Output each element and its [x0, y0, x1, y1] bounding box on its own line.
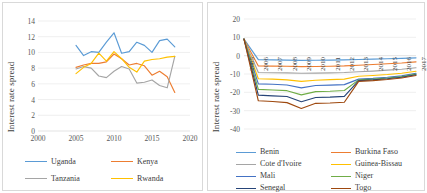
legend-label: Rwanda	[137, 175, 163, 183]
x-tick-label: 2000	[31, 134, 46, 143]
x-tick-label: 2020	[183, 134, 198, 143]
legend-label: Senegal	[260, 184, 285, 192]
chart-frame-right: Interest rate spread 20100-10-20-30-40 2…	[207, 2, 425, 191]
legend-label: Kenya	[137, 158, 158, 166]
series-line-kenya	[76, 54, 175, 93]
x-tick-label: 2015	[391, 57, 399, 71]
x-tick-label: 2008	[291, 57, 299, 71]
y-tick-label: 14	[28, 17, 36, 26]
legend-swatch-icon	[331, 152, 351, 153]
y-tick-label: -40	[230, 125, 240, 134]
legend-item-niger[interactable]: Niger	[331, 170, 426, 182]
y-tick-label: -20	[230, 88, 240, 97]
legend-swatch-icon	[331, 164, 351, 165]
y-tick-label: 0	[236, 51, 240, 60]
y-tick-label: 12	[28, 32, 36, 41]
legend-item-burkina-faso[interactable]: Burkina Faso	[331, 146, 426, 158]
x-tick-label: 2005	[69, 134, 84, 143]
legend-swatch-icon	[236, 152, 256, 153]
legend-label: Mali	[260, 172, 275, 180]
x-tick-label: 2006	[262, 57, 270, 71]
plot-area-left	[38, 21, 190, 131]
legend-label: Tanzania	[51, 175, 80, 183]
x-tick-label: 2005	[248, 57, 256, 71]
series-line-rwanda	[76, 52, 175, 74]
legend-swatch-icon	[236, 188, 256, 189]
legend-item-tanzania[interactable]: Tanzania	[25, 170, 111, 187]
y-axis-title-left: Interest rate spread	[3, 3, 19, 190]
legend-label: Benin	[260, 148, 279, 156]
legend-item-cote-d-ivoire[interactable]: Cote d'Ivoire	[236, 158, 331, 170]
legend-swatch-icon	[236, 176, 256, 177]
x-tick-label: 2014	[377, 57, 385, 71]
legend-item-senegal[interactable]: Senegal	[236, 182, 331, 193]
legend-swatch-icon	[25, 178, 47, 179]
legend-label: Uganda	[51, 158, 76, 166]
x-tick-label: 2016	[405, 57, 413, 71]
legend-swatch-icon	[25, 161, 47, 162]
legend-swatch-icon	[111, 178, 133, 179]
legend-item-guinea-bissau[interactable]: Guinea-Bissau	[331, 158, 426, 170]
x-tick-label: 2013	[362, 57, 370, 71]
y-tick-label: -30	[230, 106, 240, 115]
legend-item-benin[interactable]: Benin	[236, 146, 331, 158]
legend-swatch-icon	[331, 188, 351, 189]
y-tick-label: 4	[31, 95, 35, 104]
legend-swatch-icon	[331, 176, 351, 177]
chart-panel-waemu: Interest rate spread 20100-10-20-30-40 2…	[205, 0, 427, 193]
plot-area-right: 2005200620072008200920102011201220132014…	[244, 19, 416, 129]
legend-label: Guinea-Bissau	[355, 160, 402, 168]
y-axis-tick-labels-right: 20100-10-20-30-40	[222, 19, 240, 129]
x-axis-tick-labels-left: 20002005201020152020	[38, 134, 190, 146]
legend-label: Togo	[355, 184, 371, 192]
legend-item-rwanda[interactable]: Rwanda	[111, 170, 197, 187]
chart-frame-left: Interest rate spread 02468101214 2000200…	[2, 2, 203, 191]
legend-item-uganda[interactable]: Uganda	[25, 153, 111, 170]
y-axis-tick-labels-left: 02468101214	[19, 21, 35, 131]
legend-left: UgandaKenyaTanzaniaRwanda	[25, 153, 197, 187]
x-tick-label: 2010	[319, 57, 327, 71]
legend-right: BeninBurkina FasoCote d'IvoireGuinea-Bis…	[236, 146, 426, 193]
x-tick-label: 2009	[305, 57, 313, 71]
legend-label: Cote d'Ivoire	[260, 160, 302, 168]
x-tick-label: 2012	[348, 57, 356, 71]
legend-swatch-icon	[111, 161, 133, 162]
y-tick-label: 20	[233, 15, 241, 24]
y-tick-label: 2	[31, 111, 35, 120]
x-tick-label: 2007	[276, 57, 284, 71]
x-axis-tick-labels-right: 2005200620072008200920102011201220132014…	[244, 19, 416, 129]
legend-item-kenya[interactable]: Kenya	[111, 153, 197, 170]
legend-label: Niger	[355, 172, 373, 180]
y-tick-label: 10	[233, 33, 241, 42]
x-tick-label: 2011	[334, 57, 342, 71]
y-tick-label: 8	[31, 64, 35, 73]
legend-item-mali[interactable]: Mali	[236, 170, 331, 182]
x-tick-label: 2010	[107, 134, 122, 143]
legend-label: Burkina Faso	[355, 148, 398, 156]
y-tick-label: 10	[28, 48, 36, 57]
chart-panel-east-africa: Interest rate spread 02468101214 2000200…	[0, 0, 205, 193]
y-tick-label: 6	[31, 79, 35, 88]
legend-item-togo[interactable]: Togo	[331, 182, 426, 193]
legend-swatch-icon	[236, 164, 256, 165]
figure-container: Interest rate spread 02468101214 2000200…	[0, 0, 427, 193]
y-tick-label: -10	[230, 70, 240, 79]
x-tick-label: 2017	[420, 57, 427, 71]
x-tick-label: 2015	[145, 134, 160, 143]
line-chart-left	[38, 21, 190, 131]
